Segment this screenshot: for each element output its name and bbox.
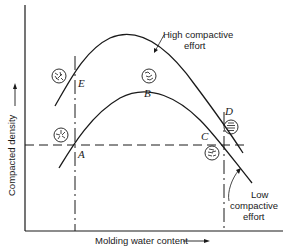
flocculated-structure-icon-e <box>52 69 66 83</box>
flocculated-structure-icon-a <box>54 128 68 142</box>
point-label-e: E <box>77 77 85 89</box>
point-label-c: C <box>201 130 209 142</box>
point-label-a: A <box>77 148 85 160</box>
high-effort-label-line2: effort <box>184 40 206 51</box>
partial-dispersed-structure-icon-c <box>205 146 219 160</box>
y-axis-arrow-icon <box>13 83 17 106</box>
point-label-d: D <box>224 105 233 117</box>
y-axis-label: Compacted density <box>6 114 17 196</box>
low-effort-pointer-icon <box>229 168 241 201</box>
partial-structure-icon-b <box>142 69 156 83</box>
low-effort-label-line3: effort <box>243 211 265 222</box>
low-effort-curve <box>59 92 252 183</box>
x-axis-label: Molding water content <box>95 235 188 246</box>
low-effort-label-line1: Low <box>251 189 269 200</box>
high-effort-label-line1: High compactive <box>163 29 233 40</box>
low-effort-label-line2: compactive <box>230 200 278 211</box>
point-label-b: B <box>144 87 151 99</box>
compaction-diagram: Compacted density Molding water content … <box>0 0 285 249</box>
